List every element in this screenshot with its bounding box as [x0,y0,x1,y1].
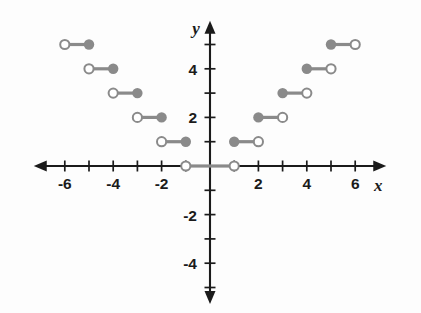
x-axis-right-arrow [373,161,386,172]
y-tick-label: -2 [183,207,197,224]
open-endpoint-dot [326,64,335,73]
y-axis-up-arrow [205,21,216,34]
y-axis-down-arrow [205,291,216,304]
y-tick-label: 2 [188,109,197,126]
open-endpoint-dot [133,113,142,122]
closed-endpoint-dot [156,112,166,122]
closed-endpoint-dot [277,88,287,98]
open-endpoint-dot [109,89,118,98]
open-endpoint-dot [84,64,93,73]
x-tick-label: -2 [155,175,169,192]
open-endpoint-dot [181,161,190,170]
x-tick-label: 4 [302,175,311,192]
x-tick-label: -6 [58,175,72,192]
open-endpoint-dot [302,89,311,98]
open-endpoint-dot [230,161,239,170]
y-tick-label: 4 [188,61,197,78]
closed-endpoint-dot [132,88,142,98]
open-endpoint-dot [278,113,287,122]
x-axis-left-arrow [34,161,47,172]
y-axis-name: y [190,19,200,38]
open-endpoint-dot [254,137,263,146]
y-tick-label: -4 [183,255,197,272]
open-endpoint-dot [351,40,360,49]
closed-endpoint-dot [302,64,312,74]
open-endpoint-dot [157,137,166,146]
x-tick-label: -4 [106,175,120,192]
x-tick-label: 6 [351,175,360,192]
closed-endpoint-dot [326,39,336,49]
closed-endpoint-dot [253,112,263,122]
closed-endpoint-dot [84,39,94,49]
axes-layer [34,21,386,304]
open-endpoint-dot [60,40,69,49]
closed-endpoint-dot [108,64,118,74]
step-function-graph: -6-4-224642-2-4xy [0,0,421,313]
x-tick-label: 2 [254,175,263,192]
closed-endpoint-dot [181,137,191,147]
x-axis-name: x [373,176,383,195]
plot-area: -6-4-224642-2-4xy [0,0,421,313]
labels-layer: -6-4-224642-2-4xy [58,19,383,273]
closed-endpoint-dot [229,137,239,147]
